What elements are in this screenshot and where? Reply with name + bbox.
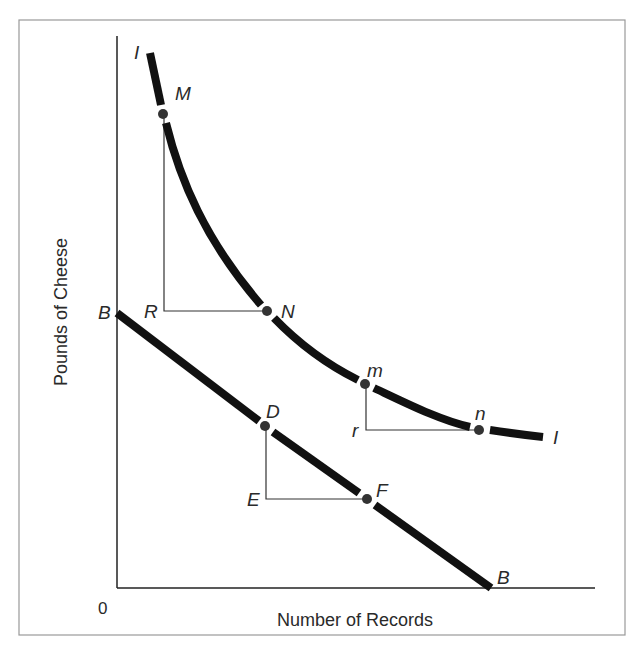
label-m: m (367, 360, 383, 381)
budget-line-segment (273, 432, 359, 493)
label-n: n (475, 403, 486, 424)
triangle-M-R-N (164, 114, 267, 311)
label-M: M (175, 83, 191, 104)
label-curve-I-top: I (134, 42, 140, 63)
budget-line-segment (375, 505, 491, 588)
indifference-curve-diagram: 0 Number of Records Pounds of Cheese I I… (0, 0, 638, 653)
label-E: E (247, 489, 260, 510)
budget-line-segment (117, 313, 259, 421)
budget-line-group (117, 313, 491, 588)
indifference-curve-segment (166, 123, 261, 305)
label-r: r (352, 420, 359, 441)
x-axis-label: Number of Records (277, 610, 433, 630)
indifference-curve-segment (274, 318, 358, 380)
label-D: D (266, 401, 280, 422)
indifference-curve-segment (150, 53, 161, 105)
label-curve-I-end: I (553, 427, 559, 448)
label-N: N (281, 301, 295, 322)
point-N (262, 306, 272, 316)
point-M (158, 109, 168, 119)
label-F: F (376, 480, 389, 501)
indifference-curve-segment (490, 430, 543, 437)
label-budget-B-end: B (497, 567, 510, 588)
figure-frame (19, 20, 625, 635)
origin-label: 0 (98, 599, 107, 618)
label-R: R (144, 301, 158, 322)
point-F (362, 494, 372, 504)
label-budget-B-top: B (98, 302, 111, 323)
point-n (474, 425, 484, 435)
point-D (260, 421, 270, 431)
y-axis-label: Pounds of Cheese (51, 238, 71, 386)
indifference-curve-segment (374, 388, 470, 427)
